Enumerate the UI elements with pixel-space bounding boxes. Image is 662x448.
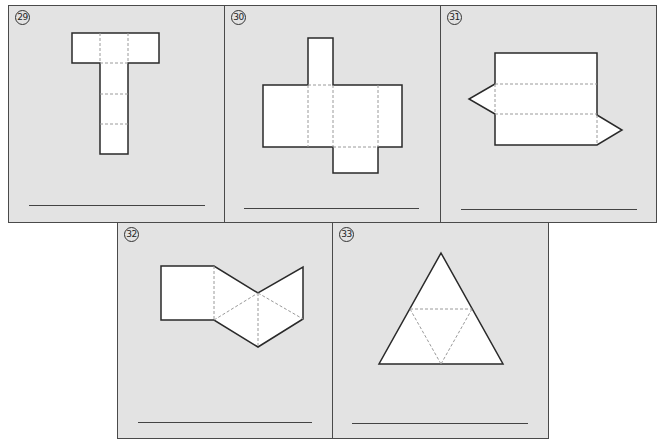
problem-panel-33: 33 bbox=[332, 222, 549, 439]
answer-line[interactable] bbox=[138, 422, 312, 423]
net-outline bbox=[469, 53, 622, 145]
problem-panel-32: 32 bbox=[117, 222, 333, 439]
triangular-pyramid-net-figure bbox=[333, 223, 550, 440]
problem-panel-29: 29 bbox=[8, 5, 225, 223]
answer-line[interactable] bbox=[352, 423, 528, 424]
square-pyramid-net-figure bbox=[118, 223, 334, 440]
answer-line[interactable] bbox=[244, 208, 419, 209]
triangular-prism-net-figure bbox=[441, 6, 658, 224]
answer-line[interactable] bbox=[461, 209, 637, 210]
t-net-figure bbox=[9, 6, 226, 224]
problem-panel-31: 31 bbox=[440, 5, 657, 223]
problem-panel-30: 30 bbox=[224, 5, 441, 223]
cross-net-figure bbox=[225, 6, 442, 224]
answer-line[interactable] bbox=[29, 205, 205, 206]
